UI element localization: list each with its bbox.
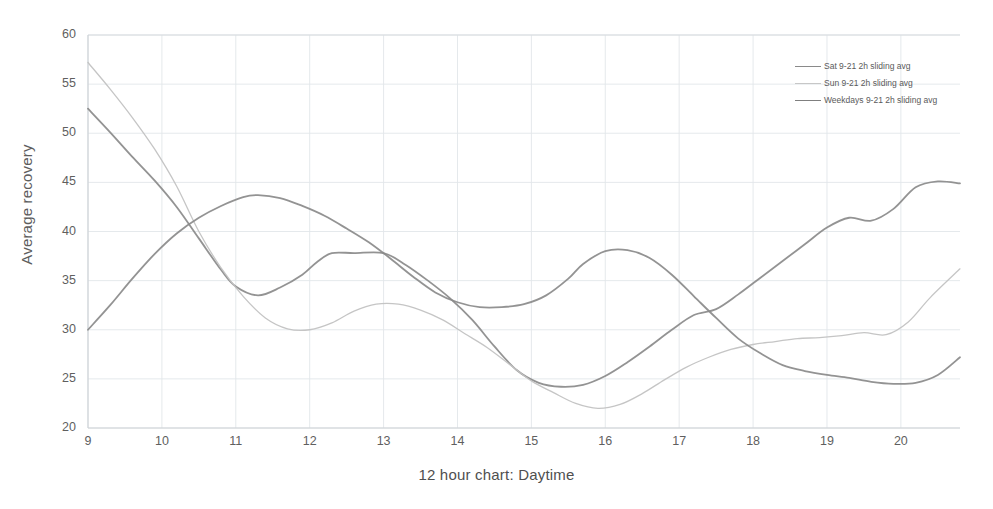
legend-color-swatch — [795, 83, 821, 84]
series-line-weekdays — [88, 195, 960, 384]
legend-item: Sun 9-21 2h sliding avg — [795, 75, 937, 92]
series-line-sat — [88, 109, 960, 387]
legend-color-swatch — [795, 66, 821, 67]
chart-container: Average recovery 12 hour chart: Daytime … — [0, 0, 993, 509]
legend-label: Sat 9-21 2h sliding avg — [824, 62, 910, 71]
chart-legend: Sat 9-21 2h sliding avgSun 9-21 2h slidi… — [795, 58, 937, 109]
legend-item: Weekdays 9-21 2h sliding avg — [795, 92, 937, 109]
legend-item: Sat 9-21 2h sliding avg — [795, 58, 937, 75]
legend-label: Weekdays 9-21 2h sliding avg — [824, 96, 937, 105]
legend-color-swatch — [795, 100, 821, 101]
legend-label: Sun 9-21 2h sliding avg — [824, 79, 913, 88]
series-line-sun — [88, 63, 960, 409]
